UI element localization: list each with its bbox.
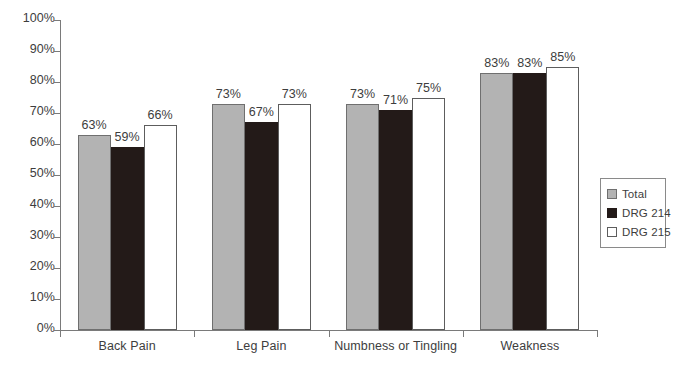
y-axis-tick-mark — [54, 113, 60, 114]
legend-item[interactable]: DRG 214 — [607, 203, 660, 222]
bar-chart: 100%90%80%70%60%50%40%30%20%10%0% Back P… — [0, 0, 677, 365]
x-axis-category-label: Weakness — [463, 339, 597, 353]
bar — [480, 73, 513, 330]
y-axis-tick-mark — [54, 20, 60, 21]
y-axis-tick-label: 80% — [30, 73, 55, 87]
x-axis-separator-tick — [60, 330, 61, 337]
bar — [346, 104, 379, 330]
bar — [144, 125, 177, 330]
bar — [111, 147, 144, 330]
bar — [245, 122, 278, 330]
x-axis-separator-tick — [597, 330, 598, 337]
bar-value-label: 85% — [540, 50, 585, 64]
x-axis-category-label: Leg Pain — [194, 339, 328, 353]
x-axis-category-label: Numbness or Tingling — [329, 339, 463, 353]
legend-label: DRG 215 — [622, 226, 671, 238]
y-axis-tick-mark — [54, 51, 60, 52]
y-axis-tick-label: 10% — [30, 290, 55, 304]
chart-legend: TotalDRG 214DRG 215 — [600, 178, 666, 248]
x-axis-category-label: Back Pain — [60, 339, 194, 353]
bar-value-label: 73% — [206, 87, 251, 101]
bar — [379, 110, 412, 330]
y-axis-tick-mark — [54, 144, 60, 145]
bar-value-label: 75% — [406, 81, 451, 95]
bar — [278, 104, 311, 330]
y-axis-tick-label: 20% — [30, 259, 55, 273]
y-axis-tick-mark — [54, 237, 60, 238]
bar-value-label: 73% — [272, 87, 317, 101]
x-axis-separator-tick — [194, 330, 195, 337]
legend-item[interactable]: DRG 215 — [607, 222, 660, 241]
legend-label: DRG 214 — [622, 207, 671, 219]
legend-swatch-icon — [607, 227, 617, 237]
y-axis-line — [60, 20, 61, 330]
y-axis-tick-mark — [54, 299, 60, 300]
bar-value-label: 66% — [138, 108, 183, 122]
y-axis-tick-mark — [54, 82, 60, 83]
bar — [212, 104, 245, 330]
legend-swatch-icon — [607, 208, 617, 218]
y-axis-tick-mark — [54, 175, 60, 176]
x-axis-separator-tick — [329, 330, 330, 337]
legend-item[interactable]: Total — [607, 184, 660, 203]
y-axis-tick-label: 40% — [30, 197, 55, 211]
x-axis-separator-tick — [463, 330, 464, 337]
bar — [78, 135, 111, 330]
legend-label: Total — [622, 188, 647, 200]
y-axis-tick-label: 0% — [37, 321, 55, 335]
y-axis-tick-label: 30% — [30, 228, 55, 242]
legend-swatch-icon — [607, 189, 617, 199]
y-axis-tick-label: 60% — [30, 135, 55, 149]
y-axis-tick-mark — [54, 206, 60, 207]
y-axis-tick-label: 90% — [30, 42, 55, 56]
y-axis-tick-label: 50% — [30, 166, 55, 180]
y-axis-tick-label: 100% — [23, 11, 55, 25]
bar — [546, 67, 579, 331]
bar — [513, 73, 546, 330]
bar — [412, 98, 445, 331]
y-axis-tick-mark — [54, 268, 60, 269]
y-axis-tick-label: 70% — [30, 104, 55, 118]
